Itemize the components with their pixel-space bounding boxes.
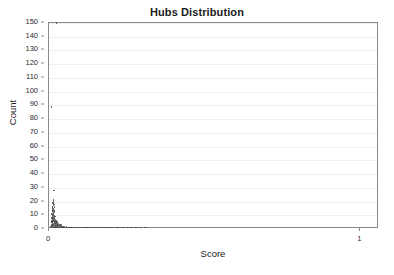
y-tick-label: 0 bbox=[34, 224, 38, 232]
chart-title: Hubs Distribution bbox=[0, 6, 394, 18]
y-tick-label: 20 bbox=[30, 197, 38, 205]
y-tick-mark bbox=[41, 90, 44, 91]
y-tick-mark bbox=[41, 186, 44, 187]
y-tick-label: 70 bbox=[30, 128, 38, 136]
x-axis-tick-labels: 01 bbox=[48, 228, 378, 246]
y-tick-mark bbox=[41, 35, 44, 36]
y-tick-mark bbox=[41, 22, 44, 23]
x-axis-label: Score bbox=[48, 248, 378, 259]
x-tick-label: 0 bbox=[46, 234, 50, 243]
scatter-point bbox=[54, 212, 56, 214]
y-tick-mark bbox=[41, 104, 44, 105]
y-tick-label: 140 bbox=[25, 32, 38, 40]
plot-area bbox=[48, 22, 378, 228]
scatter-point bbox=[56, 22, 58, 24]
y-tick-mark bbox=[41, 118, 44, 119]
y-tick-label: 120 bbox=[25, 59, 38, 67]
y-tick-label: 50 bbox=[30, 156, 38, 164]
y-tick-mark bbox=[41, 173, 44, 174]
y-tick-mark bbox=[41, 200, 44, 201]
y-tick-mark bbox=[41, 214, 44, 215]
y-tick-label: 40 bbox=[30, 169, 38, 177]
y-tick-label: 80 bbox=[30, 114, 38, 122]
y-tick-label: 150 bbox=[25, 18, 38, 26]
y-tick-label: 90 bbox=[30, 101, 38, 109]
y-tick-mark bbox=[41, 49, 44, 50]
y-tick-label: 60 bbox=[30, 142, 38, 150]
y-tick-label: 10 bbox=[30, 211, 38, 219]
scatter-point bbox=[51, 106, 53, 108]
y-tick-label: 130 bbox=[25, 46, 38, 54]
y-tick-label: 110 bbox=[26, 73, 38, 81]
x-tick-mark bbox=[359, 228, 360, 231]
scatter-point bbox=[53, 190, 55, 192]
y-tick-mark bbox=[41, 131, 44, 132]
y-tick-mark bbox=[41, 63, 44, 64]
y-axis-tick-labels: 0102030405060708090100110120130140150 bbox=[0, 22, 44, 228]
y-tick-label: 100 bbox=[25, 87, 38, 95]
scatter-points bbox=[49, 23, 377, 227]
x-tick-mark bbox=[48, 228, 49, 231]
x-tick-label: 1 bbox=[357, 234, 361, 243]
y-tick-mark bbox=[41, 228, 44, 229]
chart-figure: Hubs Distribution Count 0102030405060708… bbox=[0, 0, 394, 275]
y-tick-mark bbox=[41, 76, 44, 77]
y-tick-label: 30 bbox=[30, 183, 38, 191]
y-tick-mark bbox=[41, 145, 44, 146]
y-tick-mark bbox=[41, 159, 44, 160]
